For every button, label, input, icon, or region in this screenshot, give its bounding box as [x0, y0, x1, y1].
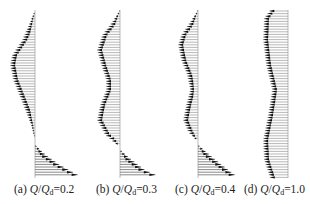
caption-q: Q — [112, 183, 120, 195]
panel-d-profile — [263, 10, 288, 179]
caption-b: (b) Q/Qd=0.3 — [96, 183, 157, 197]
caption-qd: Q — [272, 183, 280, 195]
caption-prefix: (b) — [96, 183, 112, 195]
caption-value: =0.3 — [136, 183, 157, 195]
caption-value: =1.0 — [284, 183, 305, 195]
caption-qd: Q — [124, 183, 132, 195]
caption-value: =0.2 — [53, 183, 74, 195]
caption-q: Q — [191, 183, 199, 195]
caption-q: Q — [30, 183, 38, 195]
caption-prefix: (a) — [14, 183, 30, 195]
panel-a-profile — [10, 10, 78, 178]
caption-d: (d) Q/Qd=1.0 — [244, 183, 305, 197]
caption-prefix: (c) — [175, 183, 191, 195]
caption-c: (c) Q/Qd=0.4 — [175, 183, 235, 197]
caption-value: =0.4 — [214, 183, 235, 195]
caption-q: Q — [260, 183, 268, 195]
velocity-profile-figure — [0, 0, 310, 204]
panel-b-profile — [97, 10, 155, 178]
caption-prefix: (d) — [244, 183, 260, 195]
panel-c-profile — [178, 10, 235, 178]
caption-a: (a) Q/Qd=0.2 — [14, 183, 74, 197]
